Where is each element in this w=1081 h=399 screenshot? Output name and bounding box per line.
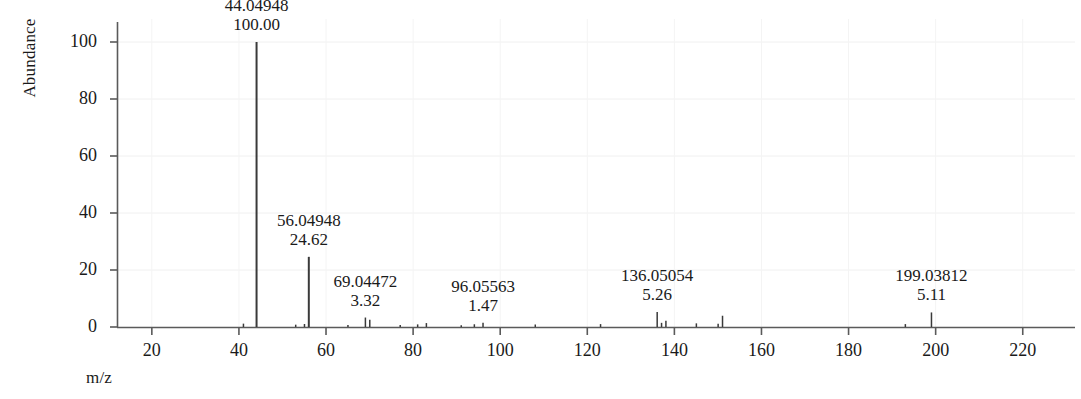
x-tick-label-40: 40 — [209, 341, 269, 359]
x-tick-label-140: 140 — [644, 341, 704, 359]
x-tick-label-160: 160 — [731, 341, 791, 359]
peak-abundance-value: 100.00 — [172, 15, 342, 34]
x-tick-label-180: 180 — [819, 341, 879, 359]
mass-spectrum-chart: Abundance m/z 020406080100 2040608010012… — [0, 0, 1081, 399]
peak-label-96.05563: 96.055631.47 — [398, 277, 568, 315]
x-tick-label-220: 220 — [993, 341, 1053, 359]
peak-label-199.03812: 199.038125.11 — [846, 266, 1016, 304]
peak-abundance-value: 5.26 — [572, 285, 742, 304]
spectrum-plot-area — [0, 0, 1081, 399]
y-axis-title: Abundance — [20, 0, 40, 118]
y-tick-label-40: 40 — [51, 203, 97, 221]
y-tick-label-60: 60 — [51, 146, 97, 164]
peak-label-44.04948: 44.04948100.00 — [172, 0, 342, 34]
y-tick-label-0: 0 — [51, 317, 97, 335]
peak-abundance-value: 5.11 — [846, 285, 1016, 304]
x-tick-label-60: 60 — [296, 341, 356, 359]
y-tick-label-20: 20 — [51, 260, 97, 278]
x-tick-label-20: 20 — [122, 341, 182, 359]
peak-mz-value: 199.03812 — [846, 266, 1016, 285]
y-tick-label-80: 80 — [51, 89, 97, 107]
peak-mz-value: 96.05563 — [398, 277, 568, 296]
peak-mz-value: 56.04948 — [224, 211, 394, 230]
x-tick-label-100: 100 — [470, 341, 530, 359]
x-tick-label-200: 200 — [906, 341, 966, 359]
peak-abundance-value: 1.47 — [398, 296, 568, 315]
peak-abundance-value: 24.62 — [224, 230, 394, 249]
x-tick-label-120: 120 — [557, 341, 617, 359]
peak-mz-value: 44.04948 — [172, 0, 342, 15]
peak-label-136.05054: 136.050545.26 — [572, 266, 742, 304]
y-tick-label-100: 100 — [51, 32, 97, 50]
x-tick-label-80: 80 — [383, 341, 443, 359]
x-axis-title: m/z — [86, 368, 112, 388]
peak-mz-value: 136.05054 — [572, 266, 742, 285]
peak-label-56.04948: 56.0494824.62 — [224, 211, 394, 249]
